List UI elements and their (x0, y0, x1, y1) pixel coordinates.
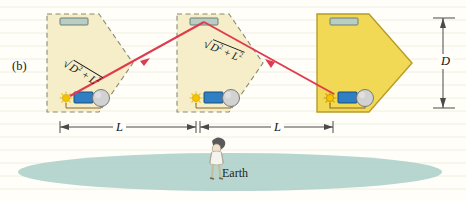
spacecraft-3-emitter (338, 92, 357, 103)
spacecraft-3-detector (357, 90, 374, 107)
panel-label: (b) (12, 59, 27, 74)
spacecraft-1-detector (93, 90, 110, 107)
spacecraft-1-emitter (74, 92, 93, 103)
dimension-label-D: D (438, 54, 453, 69)
dimension-label-L-first: L (113, 120, 126, 135)
spacecraft-position-3 (317, 14, 412, 112)
dimension-L-first (60, 121, 196, 133)
dimension-label-L-second: L (271, 120, 284, 135)
spacecraft-position-1 (47, 14, 133, 112)
spacecraft-1-mirror (60, 18, 88, 25)
spacecraft-3-mirror (330, 18, 358, 25)
figure-container: (b) √D2 + L2 √D2 + L2 L L D Earth (0, 0, 466, 201)
spacecraft-2-emitter (204, 92, 223, 103)
earth-label: Earth (222, 166, 248, 181)
spacecraft-2-detector (223, 90, 240, 107)
dimension-L-second (200, 121, 333, 133)
light-path-arrow-1 (140, 58, 150, 66)
spacecraft-2-mirror (190, 18, 218, 25)
